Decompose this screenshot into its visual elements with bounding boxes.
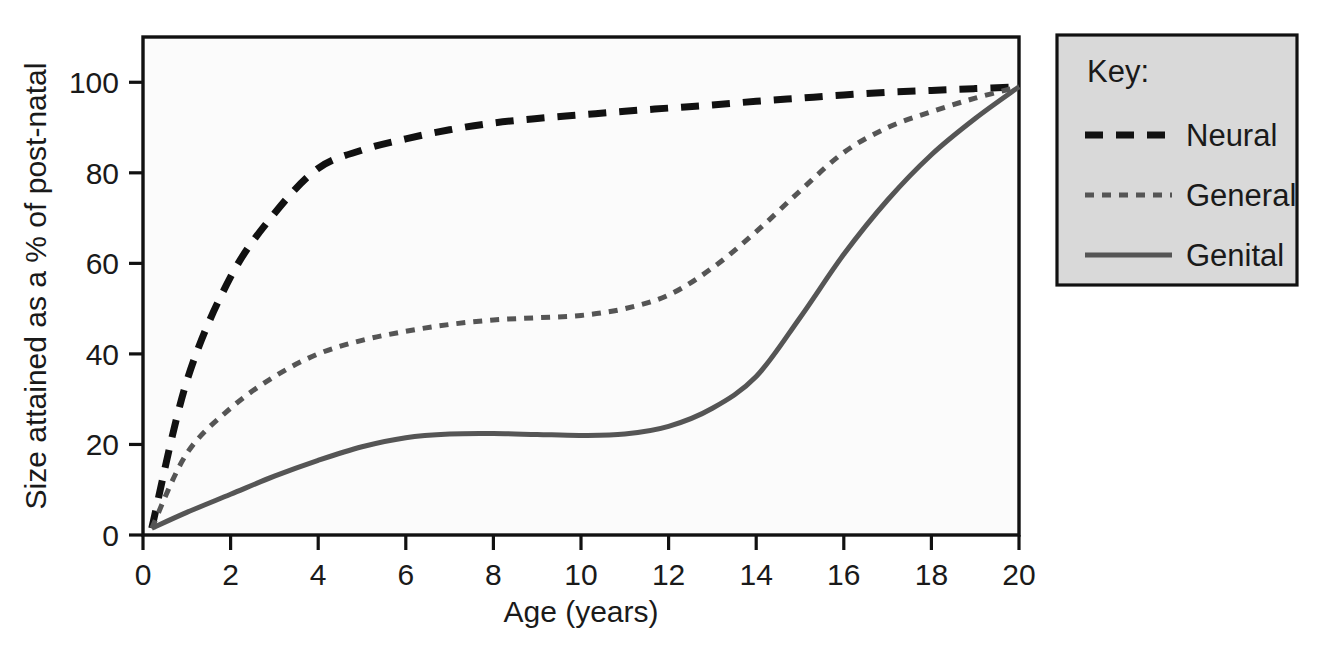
y-tick-label: 0 xyxy=(102,519,119,552)
growth-curve-figure: 020406080100 02468101214161820 Age (year… xyxy=(0,0,1325,663)
x-tick-label: 6 xyxy=(397,558,414,591)
legend-label-genital: Genital xyxy=(1186,238,1284,273)
x-axis-ticks: 02468101214161820 xyxy=(135,535,1036,591)
legend: Key: NeuralGeneralGenital xyxy=(1057,35,1297,285)
y-tick-label: 60 xyxy=(86,247,119,280)
x-tick-label: 8 xyxy=(485,558,502,591)
x-tick-label: 20 xyxy=(1002,558,1035,591)
x-tick-label: 0 xyxy=(135,558,152,591)
x-tick-label: 12 xyxy=(652,558,685,591)
x-tick-label: 16 xyxy=(827,558,860,591)
legend-title: Key: xyxy=(1087,54,1149,89)
y-tick-label: 20 xyxy=(86,428,119,461)
y-axis-title: Size attained as a % of post-natal xyxy=(19,63,52,510)
x-tick-label: 10 xyxy=(564,558,597,591)
y-tick-label: 100 xyxy=(69,66,119,99)
chart-canvas: 020406080100 02468101214161820 Age (year… xyxy=(0,0,1325,663)
legend-label-neural: Neural xyxy=(1186,118,1277,153)
y-tick-label: 80 xyxy=(86,157,119,190)
x-tick-label: 14 xyxy=(740,558,773,591)
legend-label-general: General xyxy=(1186,178,1296,213)
x-tick-label: 2 xyxy=(222,558,239,591)
x-tick-label: 18 xyxy=(915,558,948,591)
x-tick-label: 4 xyxy=(310,558,327,591)
y-axis-ticks: 020406080100 xyxy=(69,66,143,552)
x-axis-title: Age (years) xyxy=(503,595,658,628)
plot-area xyxy=(143,37,1019,535)
y-tick-label: 40 xyxy=(86,338,119,371)
